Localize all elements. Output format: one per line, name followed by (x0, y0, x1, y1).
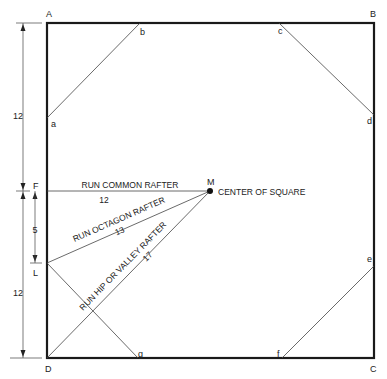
label-a: a (51, 119, 56, 129)
arrow-up-icon (21, 24, 26, 31)
label-C: C (370, 364, 377, 374)
common-rafter-value: 12 (99, 195, 109, 205)
label-d: d (367, 116, 372, 126)
cut-e-f (282, 266, 374, 358)
center-point (207, 188, 213, 194)
cut-c-d (279, 23, 374, 115)
common-rafter-label: RUN COMMON RAFTER (82, 180, 179, 190)
label-L: L (33, 268, 38, 278)
label-D: D (45, 364, 52, 374)
octagon-rafter-diagram: 12 5 12 A B C D a b c d e f g F L M CENT… (0, 0, 387, 379)
center-of-square-label: CENTER OF SQUARE (218, 187, 306, 197)
label-B: B (370, 9, 376, 19)
arrow-down-icon (21, 183, 26, 190)
dim-bottom: 12 (13, 288, 23, 298)
label-b: b (140, 27, 145, 37)
label-g: g (138, 349, 143, 359)
cut-a-b (47, 23, 140, 118)
arrow-up-icon (21, 192, 26, 199)
label-c: c (278, 26, 283, 36)
arrow-down-icon (21, 350, 26, 357)
label-M: M (207, 177, 215, 187)
label-A: A (46, 9, 52, 19)
label-e: e (367, 254, 372, 264)
dim-middle: 5 (32, 225, 37, 235)
dim-top: 12 (13, 111, 23, 121)
label-F: F (33, 181, 39, 191)
